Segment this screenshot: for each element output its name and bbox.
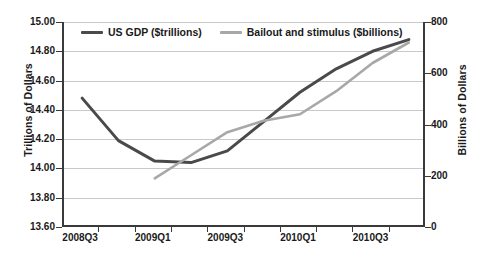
y-axis-right-tick-mark <box>425 227 431 228</box>
y-axis-left-tick-label: 14.60 <box>11 75 55 86</box>
x-axis-tick-mark <box>316 227 317 232</box>
y-axis-left-tick-label: 14.20 <box>11 133 55 144</box>
y-axis-right-tick-label: 0 <box>431 221 471 232</box>
y-axis-left-tick-mark <box>56 227 62 228</box>
legend-entry[interactable]: US GDP ($trillions) <box>81 26 202 38</box>
series-line <box>155 43 409 179</box>
x-axis-tick-label: 2009Q1 <box>117 232 189 243</box>
chart-legend: US GDP ($trillions)Bailout and stimulus … <box>78 25 406 39</box>
y-axis-left-tick-label: 14.80 <box>11 45 55 56</box>
y-axis-left-tick-label: 14.40 <box>11 104 55 115</box>
x-axis-tick-label: 2010Q1 <box>262 232 334 243</box>
y-axis-right-tick-label: 200 <box>431 170 471 181</box>
x-axis-tick-mark <box>244 227 245 232</box>
y-axis-right-tick-label: 800 <box>431 16 471 27</box>
legend-label: Bailout and stimulus ($billions) <box>247 26 403 38</box>
chart-container: Trillions of Dollars Billions of Dollars… <box>0 0 484 256</box>
series-lines <box>64 22 427 227</box>
x-axis-tick-mark <box>352 227 353 232</box>
legend-swatch-icon <box>220 31 242 34</box>
x-axis-tick-mark <box>207 227 208 232</box>
x-axis-tick-mark <box>280 227 281 232</box>
y-axis-left-tick-label: 13.80 <box>11 192 55 203</box>
x-axis-tick-label: 2010Q3 <box>335 232 407 243</box>
legend-entry[interactable]: Bailout and stimulus ($billions) <box>220 26 403 38</box>
x-axis-tick-mark <box>135 227 136 232</box>
x-axis-tick-mark <box>98 227 99 232</box>
y-axis-left-tick-label: 14.00 <box>11 162 55 173</box>
series-line <box>82 40 409 163</box>
x-axis-tick-mark <box>171 227 172 232</box>
x-axis-tick-label: 2009Q3 <box>189 232 261 243</box>
plot-area <box>62 22 425 227</box>
y-axis-left-tick-label: 13.60 <box>11 221 55 232</box>
y-axis-left-tick-label: 15.00 <box>11 16 55 27</box>
legend-label: US GDP ($trillions) <box>108 26 202 38</box>
y-axis-right-tick-label: 600 <box>431 67 471 78</box>
legend-swatch-icon <box>81 31 103 34</box>
x-axis-tick-mark <box>389 227 390 232</box>
y-axis-right-tick-label: 400 <box>431 119 471 130</box>
x-axis-tick-label: 2008Q3 <box>44 232 116 243</box>
